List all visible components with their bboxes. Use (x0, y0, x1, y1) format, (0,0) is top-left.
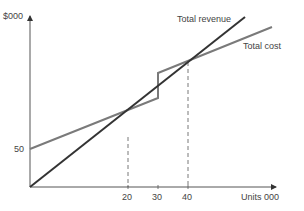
x-tick-label-40: 40 (182, 192, 192, 202)
revenue-label: Total revenue (177, 14, 231, 24)
x-tick-label-20: 20 (122, 192, 132, 202)
x-axis-label: Units 000 (241, 192, 279, 202)
break-even-chart: $000 50 20 30 40 Units 000 Total revenue… (0, 0, 304, 211)
total-cost-line (30, 27, 272, 149)
x-tick-label-30: 30 (152, 192, 162, 202)
y-tick-label-50: 50 (14, 144, 24, 154)
total-revenue-line (30, 17, 245, 187)
y-axis-label: $000 (3, 11, 23, 21)
cost-label: Total cost (243, 41, 282, 51)
